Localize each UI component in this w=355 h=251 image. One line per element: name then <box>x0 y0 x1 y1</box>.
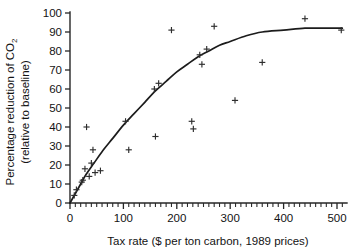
y-tick-label: 60 <box>49 83 62 95</box>
x-tick-label: 200 <box>167 212 186 224</box>
chart-figure: Percentage reduction of CO2 (relative to… <box>0 0 355 251</box>
data-point-marker <box>232 97 238 103</box>
y-tick-label: 0 <box>56 197 62 209</box>
data-point-marker <box>90 147 96 153</box>
data-point-marker <box>97 168 103 174</box>
y-tick-label: 70 <box>49 64 62 76</box>
data-point-marker <box>190 126 196 132</box>
data-point-marker <box>152 133 158 139</box>
axis-lines <box>70 12 347 203</box>
data-point-marker <box>302 16 308 22</box>
x-axis-title-text: Tax rate ($ per ton carbon, 1989 prices) <box>107 235 309 247</box>
y-axis-label-line2: (relative to baseline) <box>19 60 31 164</box>
y-axis-label-subscript: 2 <box>10 38 19 43</box>
data-point-marker <box>82 166 88 172</box>
y-axis-ticks: 0102030405060708090100 <box>43 7 70 209</box>
data-point-marker <box>83 124 89 130</box>
y-tick-label: 40 <box>49 121 62 133</box>
data-point-marker <box>122 118 128 124</box>
x-tick-label: 400 <box>274 212 293 224</box>
svg-text:Percentage reduction of CO2: Percentage reduction of CO2 <box>4 38 19 186</box>
y-tick-label: 50 <box>49 102 62 114</box>
x-tick-label: 0 <box>67 212 73 224</box>
data-point-marker <box>92 170 98 176</box>
chart-plot-area: Percentage reduction of CO2 (relative to… <box>0 0 355 251</box>
y-tick-label: 20 <box>49 159 62 171</box>
y-tick-label: 30 <box>49 140 62 152</box>
x-tick-label: 300 <box>221 212 240 224</box>
y-tick-label: 90 <box>49 26 62 38</box>
y-axis-label: Percentage reduction of CO2 (relative to… <box>4 38 31 186</box>
x-axis-title: Tax rate ($ per ton carbon, 1989 prices) <box>107 235 309 247</box>
data-point-marker <box>199 61 205 67</box>
data-point-marker <box>259 59 265 65</box>
y-tick-label: 100 <box>43 7 62 19</box>
y-tick-label: 10 <box>49 178 62 190</box>
x-tick-label: 100 <box>114 212 133 224</box>
y-axis-label-line1: Percentage reduction of CO <box>4 43 16 186</box>
data-point-marker <box>151 86 157 92</box>
fitted-curve <box>70 28 342 203</box>
y-tick-label: 80 <box>49 45 62 57</box>
data-point-marker <box>168 27 174 33</box>
x-tick-label: 500 <box>327 212 346 224</box>
data-point-markers <box>71 16 344 199</box>
data-point-marker <box>189 118 195 124</box>
data-point-marker <box>126 147 132 153</box>
data-point-marker <box>211 23 217 29</box>
